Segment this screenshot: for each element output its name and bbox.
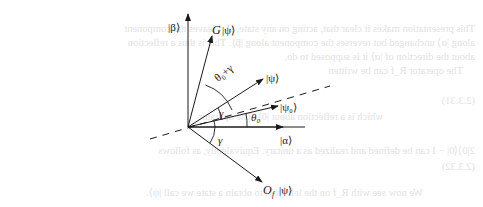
- g-label: G: [212, 23, 221, 37]
- theta0-label: θ₀: [251, 111, 260, 123]
- of-sub-label: f: [272, 190, 276, 199]
- beta-label: |β⟩: [168, 21, 180, 33]
- g-psi-ket-label: |ψ⟩: [222, 24, 235, 36]
- alpha-label: |α⟩: [280, 134, 292, 146]
- psi-label: |ψ⟩: [266, 72, 279, 84]
- g-psi-arrow: [188, 36, 212, 127]
- of-psi-ket-label: |ψ⟩: [279, 184, 292, 196]
- of-psi-arrow: [188, 127, 262, 182]
- rotation-diagram: |β⟩ G |ψ⟩ θ₀+γ |ψ⟩ |ψ₀⟩ γ θ₀ |α⟩ γ O f |…: [0, 0, 483, 207]
- of-o-label: O: [263, 183, 272, 197]
- gamma-bottom-label: γ: [218, 134, 223, 146]
- psi0-arrow: [188, 106, 278, 127]
- theta-gamma-label: θ₀+γ: [212, 62, 235, 84]
- gamma-bottom-arc-ext: [214, 121, 215, 127]
- gamma-bottom-arc: [210, 127, 215, 143]
- psi0-label: |ψ₀⟩: [280, 101, 297, 113]
- gamma-top-label: γ: [219, 107, 224, 119]
- theta0-arc: [246, 114, 247, 128]
